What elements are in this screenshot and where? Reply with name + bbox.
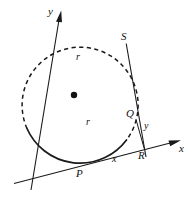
radius-label-lower: r [86, 117, 90, 127]
geometry-figure: y x r r S Q y R x P [0, 0, 192, 201]
point-label-q: Q [126, 108, 134, 119]
figure-canvas [0, 0, 192, 201]
point-label-p: P [76, 168, 83, 179]
x-axis-label: x [179, 143, 184, 154]
circle-center-dot [71, 92, 77, 98]
y-axis-line [31, 18, 59, 190]
circle-dashed-arc [22, 47, 138, 140]
y-axis-label: y [48, 6, 53, 17]
segment-label-x: x [112, 154, 116, 164]
y-axis-arrowhead [56, 11, 62, 23]
segment-label-y: y [144, 121, 148, 131]
point-label-r: R [138, 150, 145, 161]
segment-SR [126, 44, 146, 158]
point-label-s: S [121, 31, 127, 42]
radius-label-upper: r [76, 52, 80, 62]
